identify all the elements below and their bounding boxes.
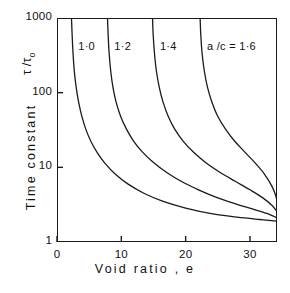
x-tick-label-20: 20 <box>172 248 200 260</box>
figure-chart-time-constant-vs-void-ratio: 1000100101 0102030 1·01·21·4a /c = 1·6 τ… <box>0 0 290 293</box>
y-tick-label-1: 1 <box>45 234 52 246</box>
x-tick-label-0: 0 <box>43 248 71 260</box>
y-axis-title: Time constant <box>24 82 38 232</box>
x-axis-title: Void ratio , e <box>0 262 290 276</box>
y-tick-label-1000: 1000 <box>26 10 52 22</box>
y-axis-symbol-main: τ /τ <box>19 58 34 76</box>
x-tick-label-10: 10 <box>107 248 135 260</box>
y-axis-symbol-subscript: o <box>27 53 37 58</box>
x-tick-label-30: 30 <box>236 248 264 260</box>
curve-label-1: 1·2 <box>114 40 131 52</box>
curve-label-2: 1·4 <box>160 40 177 52</box>
y-tick-label-10: 10 <box>39 159 52 171</box>
curve-label-3: a /c = 1·6 <box>207 40 256 52</box>
curve-label-0: 1·0 <box>78 40 95 52</box>
